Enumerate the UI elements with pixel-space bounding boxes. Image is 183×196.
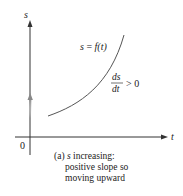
t-axis-label: t: [171, 131, 174, 142]
caption: (a) s increasing: positive slope so movi…: [54, 151, 128, 184]
t-axis-arrow-icon: [161, 135, 168, 140]
caption-line-3: moving upward: [54, 173, 128, 184]
origin-label: 0: [20, 140, 25, 151]
curve-label: s = f(t): [80, 41, 107, 53]
derivative-relation: > 0: [126, 78, 139, 89]
motion-arrow-shaft: [29, 98, 31, 118]
s-axis-label: s: [24, 9, 28, 20]
caption-line-2: positive slope so: [54, 162, 128, 173]
motion-arrow-up-icon: [28, 93, 33, 100]
derivative-numerator: ds: [112, 72, 121, 82]
caption-line-1: (a) s increasing:: [54, 151, 128, 162]
derivative-denominator: dt: [112, 84, 120, 94]
s-axis-arrow-icon: [28, 20, 33, 27]
